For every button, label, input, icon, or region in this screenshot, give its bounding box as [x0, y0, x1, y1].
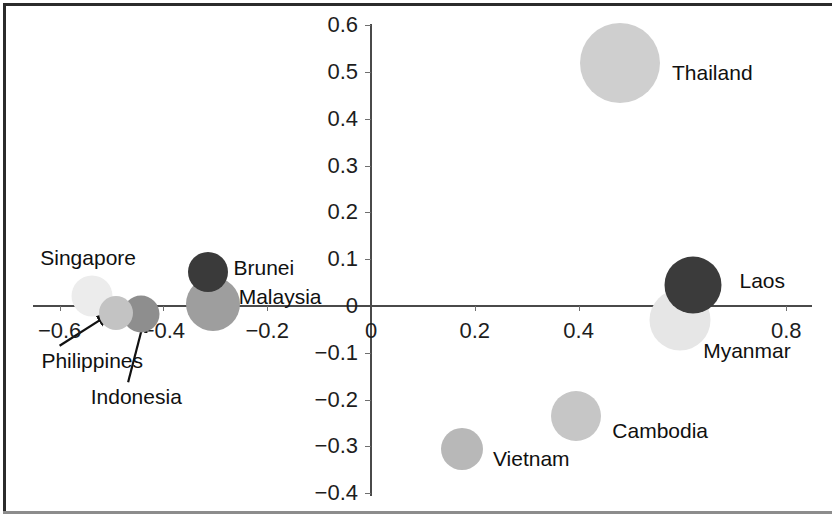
point-label-indonesia: Indonesia	[91, 386, 182, 407]
y-tick-mark	[365, 119, 371, 120]
frame-bottom-border	[3, 511, 832, 514]
y-tick-label: 0.1	[300, 248, 358, 270]
bubble-philippines	[99, 296, 133, 330]
y-tick-label: 0.2	[300, 201, 358, 223]
point-label-malaysia: Malaysia	[239, 285, 322, 306]
y-tick-label: 0.3	[300, 155, 358, 177]
y-tick-mark	[365, 259, 371, 260]
frame-left-border	[3, 3, 6, 514]
y-tick-mark	[365, 353, 371, 354]
bubble-brunei	[188, 252, 228, 292]
point-label-laos: Laos	[739, 270, 785, 291]
x-tick-label: 0.4	[563, 320, 594, 342]
x-tick-mark	[60, 306, 61, 311]
point-label-thailand: Thailand	[672, 62, 753, 83]
y-tick-label: −0.2	[300, 389, 358, 411]
y-tick-mark	[365, 400, 371, 401]
frame-top-border	[3, 3, 832, 6]
point-label-cambodia: Cambodia	[612, 420, 708, 441]
point-label-vietnam: Vietnam	[493, 448, 570, 469]
bubble-chart-figure: −0.6−0.4−0.200.20.40.60.8 0.60.50.40.30.…	[0, 0, 832, 517]
y-tick-mark	[365, 493, 371, 494]
y-tick-label: −0.4	[300, 482, 358, 504]
x-tick-mark	[786, 306, 787, 311]
y-tick-mark	[365, 25, 371, 26]
y-tick-label: 0.6	[300, 14, 358, 36]
point-label-myanmar: Myanmar	[703, 340, 791, 361]
y-tick-mark	[365, 446, 371, 447]
point-label-singapore: Singapore	[40, 246, 136, 267]
y-tick-label: −0.3	[300, 435, 358, 457]
bubble-vietnam	[441, 428, 483, 470]
y-tick-label: 0.4	[300, 108, 358, 130]
y-tick-label: −0.1	[300, 342, 358, 364]
x-tick-label: −0.6	[38, 320, 81, 342]
bubble-cambodia	[551, 391, 601, 441]
x-tick-mark	[163, 306, 164, 311]
x-tick-label: 0	[365, 320, 377, 342]
y-tick-mark	[365, 166, 371, 167]
x-tick-mark	[475, 306, 476, 311]
y-tick-label: 0.5	[300, 61, 358, 83]
y-tick-mark	[365, 212, 371, 213]
point-label-brunei: Brunei	[233, 257, 294, 278]
x-tick-mark	[579, 306, 580, 311]
point-label-philippines: Philippines	[41, 349, 143, 370]
x-tick-label: 0.2	[460, 320, 491, 342]
y-tick-mark	[365, 72, 371, 73]
bubble-thailand	[580, 23, 660, 103]
bubble-laos	[664, 256, 721, 313]
x-tick-label: −0.2	[245, 320, 288, 342]
